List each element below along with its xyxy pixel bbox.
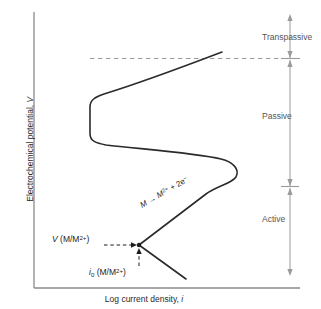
exchange-current-charge: 2+ — [116, 267, 123, 274]
zone-arrow-bottom-down — [287, 269, 292, 276]
x-axis-title: Log current density, i — [34, 295, 254, 304]
exchange-current-close: ) — [123, 267, 126, 277]
equilibrium-potential-pointer — [104, 242, 137, 248]
zone-label-passive: Passive — [262, 112, 292, 121]
zone-arrow-passive-down — [287, 179, 292, 186]
equilibrium-potential-symbol: V — [52, 234, 58, 244]
equilibrium-potential-close: ) — [86, 234, 89, 244]
zone-bracket — [281, 14, 299, 276]
zone-arrow-top-up — [287, 14, 292, 21]
exchange-current-species: (M/M — [97, 267, 116, 277]
zone-label-active: Active — [262, 215, 285, 224]
y-axis-title-text: Electrochemical potential — [25, 107, 35, 202]
cathodic-branch-line — [139, 245, 186, 279]
exchange-current-label: i0 (M/M2+) — [89, 268, 126, 278]
x-axis-title-symbol: i — [181, 294, 183, 304]
zone-arrow-passive-up — [287, 60, 292, 67]
x-axis-title-text: Log current density — [105, 294, 177, 304]
plot-canvas — [0, 0, 321, 309]
axis-frame — [34, 12, 300, 288]
polarization-curve-figure: Electrochemical potential, V Log current… — [0, 0, 321, 309]
exchange-current-point-marker — [137, 243, 141, 247]
y-axis-title-symbol: V — [25, 97, 35, 103]
exchange-current-pointer — [136, 248, 141, 266]
equilibrium-potential-species: (M/M — [60, 234, 79, 244]
equilibrium-potential-label: V (M/M2+) — [52, 235, 89, 244]
zone-arrow-active-up — [287, 188, 292, 195]
y-axis-title-sep: , — [25, 102, 35, 107]
anodic-polarization-curve — [90, 52, 237, 245]
y-axis-title: Electrochemical potential, V — [26, 59, 35, 239]
zone-arrow-transpassive-down — [287, 51, 292, 58]
zone-label-transpassive: Transpassive — [262, 33, 312, 42]
